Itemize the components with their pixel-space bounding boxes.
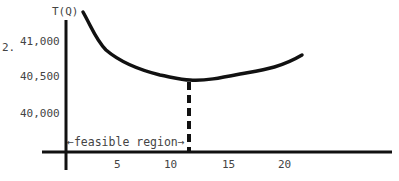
cost-curve: [83, 12, 302, 80]
chart-plot: [0, 0, 399, 181]
